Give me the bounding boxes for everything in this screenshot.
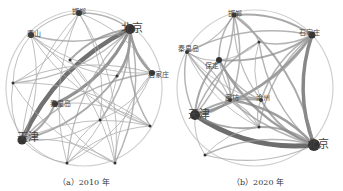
network-node — [258, 126, 261, 129]
caption-2010: （a）2010 年 — [58, 176, 110, 187]
node-label: 天津 — [188, 108, 210, 121]
node-label: 保定 — [205, 61, 219, 70]
network-graph-2020: 邯郸石家庄秦皇岛保定廊坊沧州天津北京 — [0, 0, 343, 191]
node-label: 沧州 — [256, 93, 270, 102]
node-label: 秦皇岛 — [178, 44, 199, 53]
network-node — [204, 154, 207, 157]
caption-2020: （b）2020 年 — [232, 176, 284, 187]
network-edge — [303, 35, 314, 145]
node-label: 石家庄 — [299, 28, 320, 37]
node-label: 北京 — [307, 137, 329, 151]
node-label: 廊坊 — [225, 93, 239, 102]
node-label: 邯郸 — [228, 9, 242, 18]
network-panel-2020: 邯郸石家庄秦皇岛保定廊坊沧州天津北京 — [0, 0, 343, 191]
network-node — [258, 41, 261, 44]
